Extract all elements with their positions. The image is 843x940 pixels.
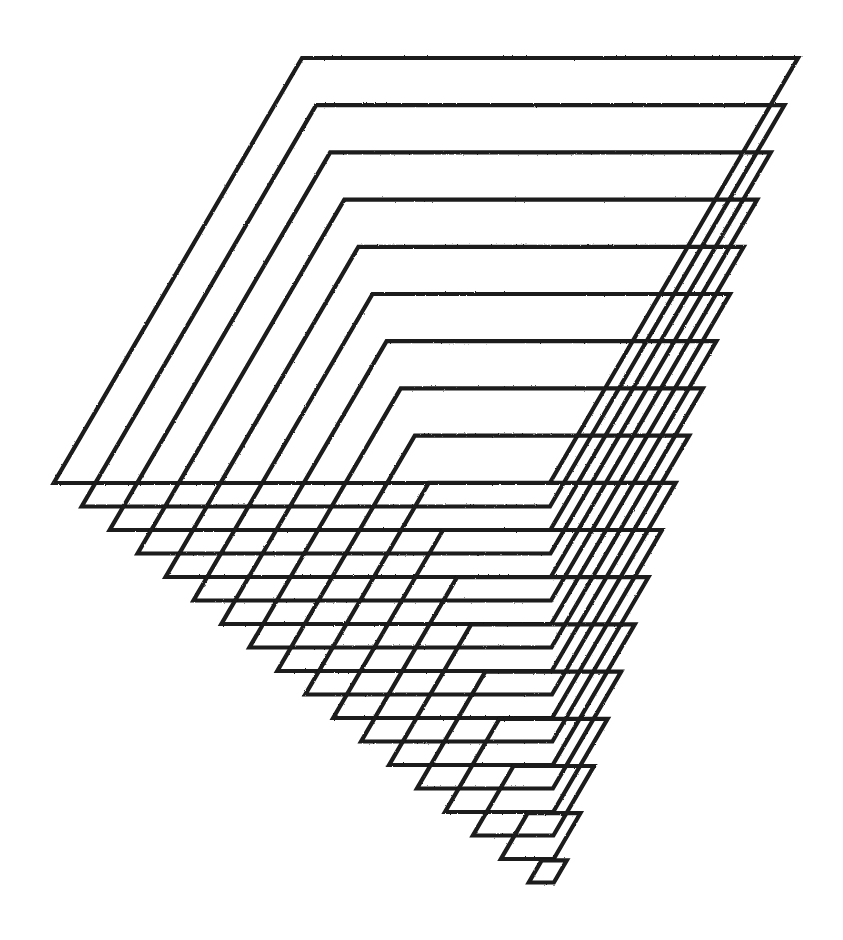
nested-parallelograms-drawing: [0, 0, 843, 940]
parallelogram-outline: [305, 483, 675, 695]
parallelogram-outline: [529, 860, 567, 882]
parallelogram-outline: [249, 388, 702, 647]
parallelogram-group: [54, 58, 798, 883]
artwork-canvas: Plotter drawing of nested, progressively…: [0, 0, 843, 940]
